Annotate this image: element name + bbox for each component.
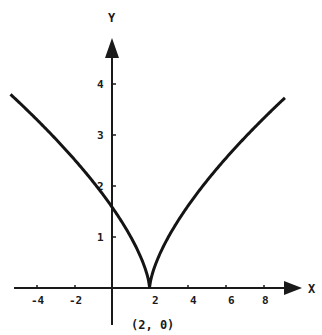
cusp-annotation: (2, 0)	[131, 318, 174, 332]
x-axis-label: X	[308, 282, 316, 296]
y-tick-label: 1	[97, 231, 104, 244]
x-tick-label: 8	[262, 294, 269, 307]
x-tick-label: 4	[190, 294, 197, 307]
x-axis-arrow-icon	[284, 281, 302, 295]
curve-line	[10, 94, 284, 287]
y-tick-label: 3	[97, 129, 104, 142]
y-axis-label: Y	[108, 11, 116, 25]
y-tick-label: 4	[97, 78, 104, 91]
y-axis-arrow-icon	[105, 38, 119, 58]
chart: X Y -4 -2 2 4 6 8 1 2 3 4 (2, 0)	[0, 0, 322, 335]
x-tick-label: 6	[228, 294, 235, 307]
x-tick-label: -2	[69, 294, 82, 307]
x-tick-label: -4	[31, 294, 45, 307]
x-tick-label: 2	[152, 294, 159, 307]
